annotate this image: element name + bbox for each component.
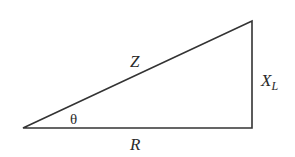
hypotenuse-label-z: Z [130,52,140,71]
triangle-shape [23,21,252,128]
impedance-triangle-diagram: Z θ R XL [0,0,295,157]
opposite-label-xl: XL [260,71,278,93]
opposite-label-subscript: L [270,79,278,93]
angle-label-theta: θ [70,111,77,127]
opposite-label-main: X [260,71,272,90]
adjacent-label-r: R [129,135,141,154]
